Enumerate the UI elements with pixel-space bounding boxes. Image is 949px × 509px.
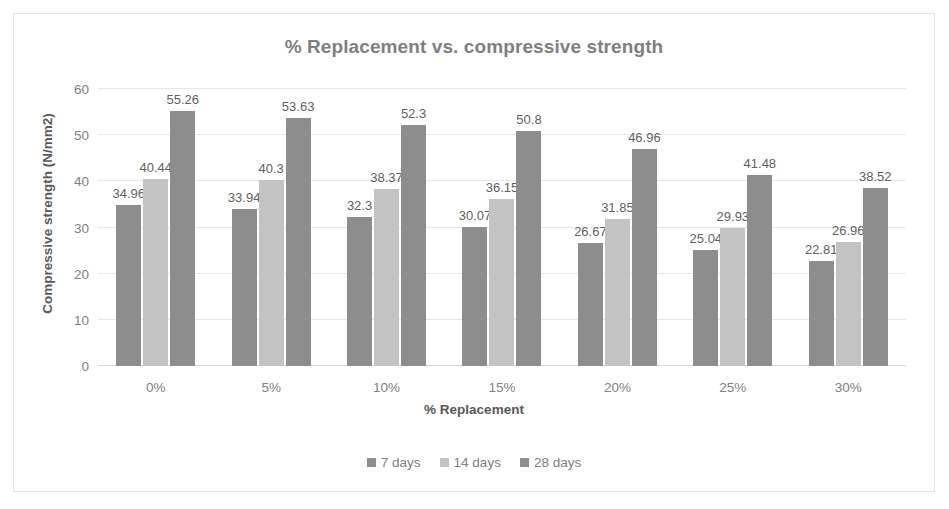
x-axis-title: % Replacement: [14, 402, 934, 417]
bar-value-label: 25.04: [690, 231, 723, 246]
bar[interactable]: 26.96: [836, 242, 861, 366]
bar-value-label: 40.44: [139, 160, 172, 175]
bar-value-label: 46.96: [628, 130, 661, 145]
y-axis-tick-label: 20: [74, 266, 89, 281]
y-axis-tick-label: 10: [74, 312, 89, 327]
bar-value-label: 26.67: [574, 224, 607, 239]
legend-swatch-icon: [367, 458, 376, 467]
bar-series-layer: 34.9640.4455.2633.9440.353.6332.338.3752…: [98, 89, 906, 366]
bar-group: 22.8126.9638.52: [791, 89, 906, 366]
bar[interactable]: 30.07: [462, 227, 487, 366]
x-axis-tick-label: 10%: [329, 380, 444, 395]
bar-value-label: 40.3: [258, 161, 283, 176]
bar-group: 34.9640.4455.26: [98, 89, 213, 366]
x-axis-tick-label: 0%: [98, 380, 213, 395]
legend-item[interactable]: 14 days: [440, 455, 501, 470]
bar[interactable]: 55.26: [170, 111, 195, 366]
bar-value-label: 50.8: [516, 112, 541, 127]
bar[interactable]: 25.04: [693, 250, 718, 366]
bar-group: 25.0429.9341.48: [675, 89, 790, 366]
bar[interactable]: 34.96: [116, 205, 141, 366]
bar-value-label: 22.81: [805, 242, 838, 257]
bar[interactable]: 38.37: [374, 189, 399, 366]
bar[interactable]: 40.44: [143, 179, 168, 366]
bar[interactable]: 50.8: [516, 131, 541, 366]
chart-title: % Replacement vs. compressive strength: [14, 36, 934, 58]
legend-item[interactable]: 7 days: [367, 455, 421, 470]
bar[interactable]: 32.3: [347, 217, 372, 366]
bar-value-label: 41.48: [744, 156, 777, 171]
bar-value-label: 38.37: [370, 170, 403, 185]
plot-area: 0102030405060 34.9640.4455.2633.9440.353…: [98, 89, 906, 366]
bar[interactable]: 52.3: [401, 125, 426, 366]
bar-value-label: 33.94: [228, 190, 261, 205]
bar-value-label: 52.3: [401, 106, 426, 121]
y-axis-tick-label: 60: [74, 82, 89, 97]
legend-label: 7 days: [381, 455, 421, 470]
bar-group: 26.6731.8546.96: [560, 89, 675, 366]
bar-value-label: 29.93: [717, 209, 750, 224]
y-axis-tick-label: 50: [74, 128, 89, 143]
legend-item[interactable]: 28 days: [520, 455, 581, 470]
x-axis-tick-label: 5%: [213, 380, 328, 395]
x-axis-tick-label: 25%: [675, 380, 790, 395]
chart-legend: 7 days14 days28 days: [14, 455, 934, 470]
y-axis-tick-label: 0: [81, 359, 89, 374]
legend-swatch-icon: [520, 458, 529, 467]
y-axis-tick-label: 40: [74, 174, 89, 189]
bar-group: 30.0736.1550.8: [444, 89, 559, 366]
bar[interactable]: 38.52: [863, 188, 888, 366]
bar-value-label: 55.26: [166, 92, 199, 107]
bar-group: 32.338.3752.3: [329, 89, 444, 366]
legend-label: 14 days: [454, 455, 501, 470]
bar[interactable]: 26.67: [578, 243, 603, 366]
bar-value-label: 26.96: [832, 223, 865, 238]
bar-value-label: 30.07: [459, 208, 492, 223]
bar-group: 33.9440.353.63: [213, 89, 328, 366]
bar-value-label: 32.3: [347, 198, 372, 213]
bar-value-label: 31.85: [601, 200, 634, 215]
bar[interactable]: 33.94: [232, 209, 257, 366]
bar[interactable]: 22.81: [809, 261, 834, 366]
bar-value-label: 36.15: [486, 180, 519, 195]
bar-value-label: 53.63: [282, 99, 315, 114]
bar[interactable]: 46.96: [632, 149, 657, 366]
y-axis-tick-label: 30: [74, 220, 89, 235]
x-axis-tick-label: 20%: [560, 380, 675, 395]
bar-value-label: 38.52: [859, 169, 892, 184]
legend-label: 28 days: [534, 455, 581, 470]
bar[interactable]: 53.63: [286, 118, 311, 366]
y-axis-title: Compressive strength (N/mm2): [40, 89, 55, 339]
bar[interactable]: 29.93: [720, 228, 745, 366]
bar[interactable]: 41.48: [747, 175, 772, 366]
legend-swatch-icon: [440, 458, 449, 467]
bar-value-label: 34.96: [112, 186, 145, 201]
x-axis-tick-label: 30%: [791, 380, 906, 395]
bar[interactable]: 40.3: [259, 180, 284, 366]
bar[interactable]: 36.15: [489, 199, 514, 366]
bar[interactable]: 31.85: [605, 219, 630, 366]
chart-container: % Replacement vs. compressive strength C…: [13, 13, 935, 492]
x-axis-tick-label: 15%: [444, 380, 559, 395]
